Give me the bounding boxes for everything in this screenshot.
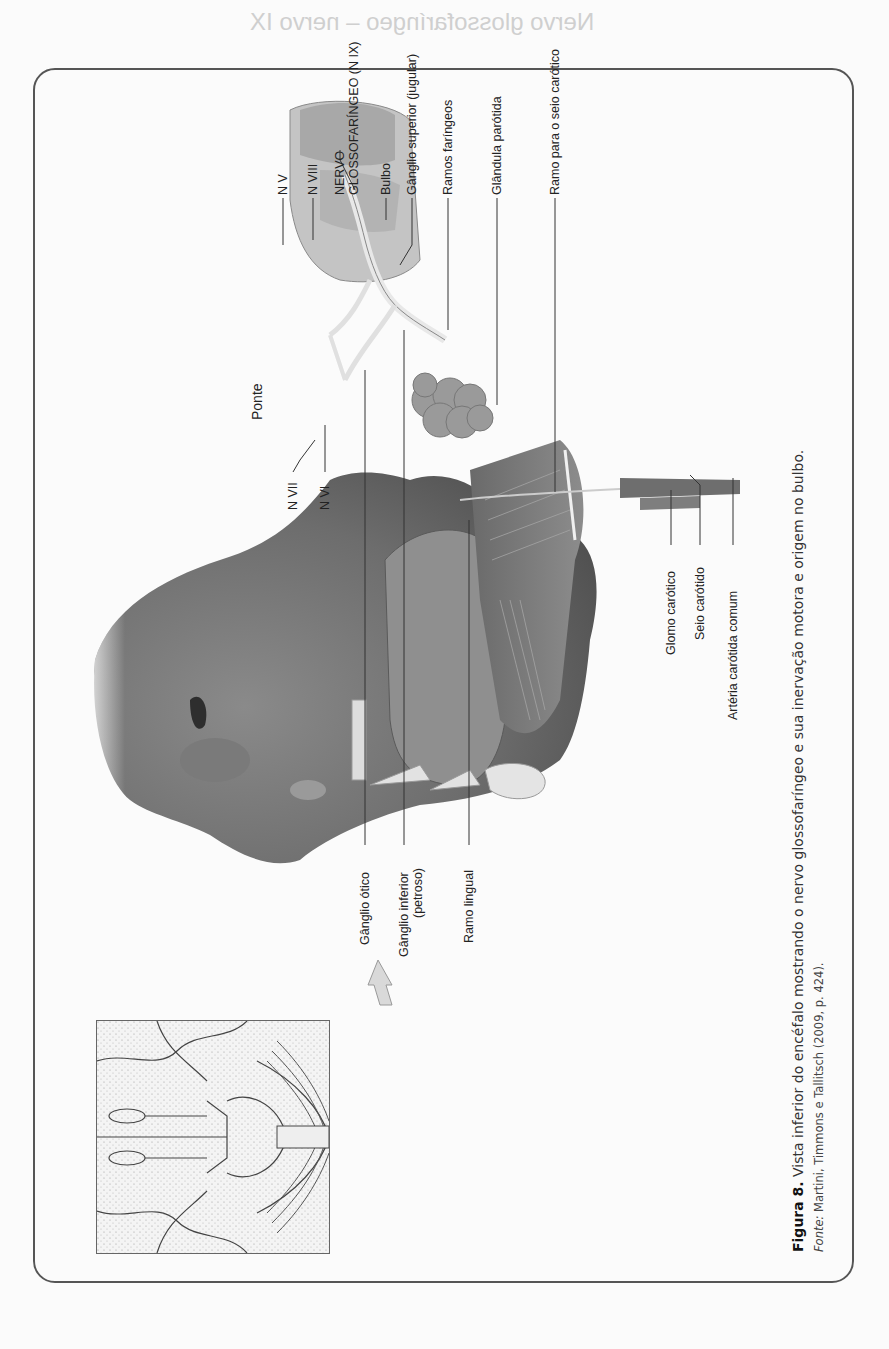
label-glossofaringeo: GLOSSOFARÍNGEO (N IX) <box>347 42 361 196</box>
figure-source: Fonte: Martini, Timmons e Tallitsch (200… <box>812 962 826 1252</box>
label-ganglio-inferior: Gânglio inferior <box>397 872 411 957</box>
label-ganglio-superior: Gânglio superior (jugular) <box>405 54 419 195</box>
label-n-vi: N VI <box>318 486 332 510</box>
label-ramos-faringeos: Ramos faríngeos <box>441 100 455 195</box>
figure-caption-text: Vista inferior do encéfalo mostrando o n… <box>790 450 806 1177</box>
label-n-viii: N VIII <box>306 164 320 195</box>
label-ganglio-otico: Gânglio ótico <box>358 872 372 945</box>
label-seio-carotido: Seio carótido <box>693 567 707 640</box>
figure-source-text: Martini, Timmons e Tallitsch (2009, p. 4… <box>812 962 826 1211</box>
label-ramo-lingual: Ramo lingual <box>462 870 476 943</box>
label-arteria-carotida-comum: Artéria carótida comum <box>726 591 740 720</box>
label-glomo-carotico: Glomo carótico <box>664 571 678 655</box>
label-ramo-seio-carotico: Ramo para o seio carótico <box>548 49 562 195</box>
label-n-vii: N VII <box>286 482 300 510</box>
brain-inset-image <box>96 1020 330 1254</box>
label-petroso: (petroso) <box>411 868 425 918</box>
figure-caption: Figura 8. Vista inferior do encéfalo mos… <box>790 450 806 1252</box>
label-n-v: N V <box>276 174 290 195</box>
figure-source-label: Fonte: <box>812 1216 826 1252</box>
label-nervo: NERVO <box>333 151 347 195</box>
label-bulbo: Bulbo <box>379 163 393 195</box>
figure-number: Figura 8. <box>790 1181 806 1252</box>
label-ponte: Ponte <box>250 383 264 420</box>
label-glandula-parotida: Glândula parótida <box>490 96 504 195</box>
